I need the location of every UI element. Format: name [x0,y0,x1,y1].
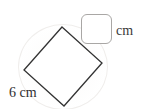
answer-input-box[interactable] [81,14,112,44]
side-length-label: 6 cm [9,85,37,101]
geometry-figure: ) cm 6 cm [0,0,146,109]
answer-unit-label: cm [116,23,133,39]
